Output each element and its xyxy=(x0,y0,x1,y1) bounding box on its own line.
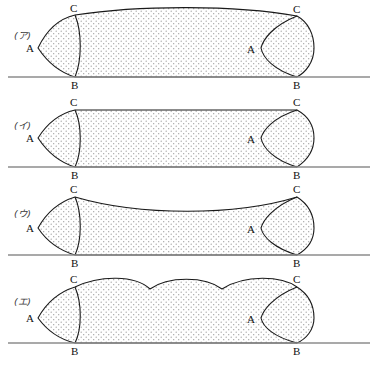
point-label-right-c: C xyxy=(293,273,300,285)
point-label-left-a: A xyxy=(26,132,34,144)
point-label-left-a: A xyxy=(26,222,34,234)
figure-sheet: (ア) A B C A B C (イ) A B C A B C xyxy=(0,0,377,368)
point-label-left-c: C xyxy=(70,96,77,108)
figure-panel-e-drawing xyxy=(0,266,377,358)
shape-outline-u xyxy=(38,197,314,255)
point-label-right-a: A xyxy=(247,313,255,325)
figure-panel-a: (ア) A B C A B C xyxy=(0,0,377,92)
panel-tag-u: (ウ) xyxy=(14,206,31,220)
point-label-right-a: A xyxy=(247,133,255,145)
figure-panel-i-drawing xyxy=(0,90,377,182)
point-label-left-a: A xyxy=(26,312,34,324)
shape-outline-i xyxy=(38,110,314,167)
point-label-right-c: C xyxy=(293,3,300,15)
point-label-right-c: C xyxy=(293,96,300,108)
point-label-right-c: C xyxy=(293,183,300,195)
shape-outline-a xyxy=(38,8,314,77)
panel-tag-a: (ア) xyxy=(14,28,31,42)
point-label-right-a: A xyxy=(247,223,255,235)
figure-panel-i: (イ) A B C A B C xyxy=(0,90,377,182)
point-label-right-b: B xyxy=(293,345,300,357)
point-label-left-a: A xyxy=(26,42,34,54)
figure-panel-a-drawing xyxy=(0,0,377,92)
panel-tag-i: (イ) xyxy=(14,118,31,132)
figure-panel-u: (ウ) A B C A B C xyxy=(0,178,377,270)
point-label-left-b: B xyxy=(71,345,78,357)
point-label-left-c: C xyxy=(70,183,77,195)
point-label-left-c: C xyxy=(70,2,77,14)
figure-panel-u-drawing xyxy=(0,178,377,270)
point-label-right-a: A xyxy=(247,43,255,55)
point-label-left-c: C xyxy=(70,273,77,285)
figure-panel-e: (エ) A B C A B C xyxy=(0,266,377,358)
panel-tag-e: (エ) xyxy=(14,294,31,308)
